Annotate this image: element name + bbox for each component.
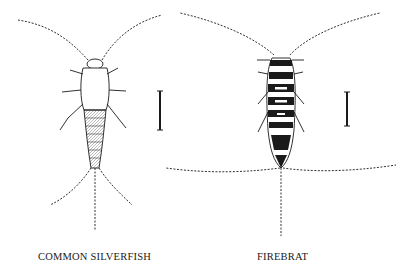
silverfish-illustration [18,15,162,230]
silverfish-antenna-right [102,15,162,60]
silverfish-scale-bar [157,91,163,130]
silverfish-cercus-left [50,168,91,205]
firebrat-illustration [166,13,396,236]
silverfish-cercus-right [99,168,132,205]
silverfish-abdomen [84,110,106,168]
firebrat-antenna-right [290,13,380,55]
firebrat-scale-bar [344,92,350,126]
firebrat-antenna-left [180,13,274,55]
insect-comparison-figure: COMMON SILVERFISH FIREBRAT [0,0,401,275]
firebrat-cercus-left [166,168,280,172]
silverfish-head [87,59,103,69]
illustration-canvas [0,0,401,275]
silverfish-thorax [81,68,109,110]
firebrat-cercus-right [283,165,396,171]
silverfish-antenna-left [18,20,88,60]
firebrat-caption: FIREBRAT [257,251,308,262]
silverfish-caption: COMMON SILVERFISH [38,251,151,262]
